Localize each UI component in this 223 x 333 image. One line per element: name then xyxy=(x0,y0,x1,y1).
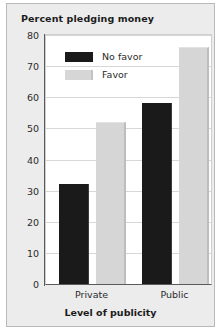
legend-label-no-favor: No favor xyxy=(102,51,142,62)
y-axis-tick-label: 30 xyxy=(17,185,39,196)
bar-public-no-favor xyxy=(142,103,172,284)
y-axis-tick-label: 80 xyxy=(17,30,39,41)
bar-public-favor xyxy=(179,47,209,284)
y-axis-tick-label: 10 xyxy=(17,247,39,258)
chart-screenshot: Percent pledging money 01020304050607080… xyxy=(0,0,223,333)
y-axis-tick-label: 20 xyxy=(17,216,39,227)
chart-title: Percent pledging money xyxy=(21,13,154,24)
legend-item-no-favor: No favor xyxy=(65,50,142,63)
y-axis-tick-label: 60 xyxy=(17,92,39,103)
bar-private-favor xyxy=(96,122,126,284)
chart-legend: No favor Favor xyxy=(65,50,142,86)
legend-label-favor: Favor xyxy=(102,69,128,80)
y-axis-tick-label: 40 xyxy=(17,154,39,165)
y-axis-tick-label: 0 xyxy=(17,279,39,290)
legend-swatch-no-favor xyxy=(65,52,93,62)
y-axis-labels: 01020304050607080 xyxy=(15,34,39,285)
x-axis-label-public: Public xyxy=(160,289,188,300)
y-axis-tick-label: 70 xyxy=(17,61,39,72)
y-axis-tick-label: 50 xyxy=(17,123,39,134)
x-axis-title: Level of publicity xyxy=(7,307,214,318)
x-axis-label-private: Private xyxy=(75,289,108,300)
chart-panel: Percent pledging money 01020304050607080… xyxy=(6,3,215,327)
bar-private-no-favor xyxy=(59,184,89,284)
legend-swatch-favor xyxy=(65,70,93,80)
legend-item-favor: Favor xyxy=(65,68,142,81)
